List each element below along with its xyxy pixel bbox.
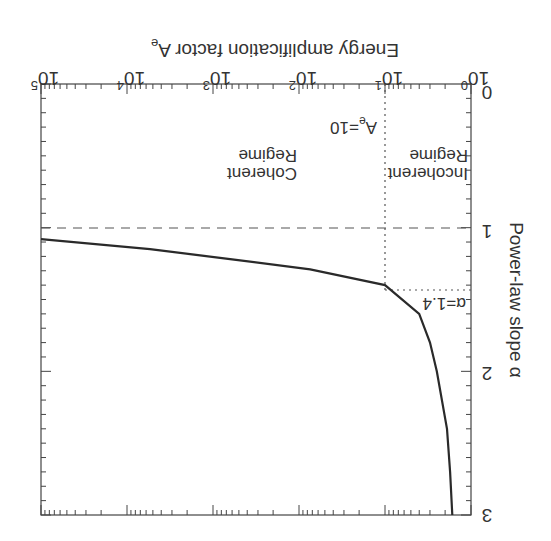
svg-text:105: 105 [31,68,59,93]
x-axis-title-sub: e [151,36,158,51]
chart: Energy amplification factor Ae 100101102… [0,0,551,541]
x-axis-title: Energy amplification factor Ae [151,36,399,61]
svg-text:103: 103 [203,68,231,93]
x-tick-label: 102 [289,68,317,93]
incoherent-line1: Incoherent [387,164,468,183]
annotation-incoherent-regime-2: Regime [409,146,468,165]
coherent-line2: Regime [238,146,297,165]
svg-text:104: 104 [117,68,145,93]
x-tick-label: 105 [31,68,59,93]
amplification-curve [41,239,452,515]
ann-ae-rest: =10 [330,118,359,137]
incoherent-line2: Regime [409,146,468,165]
ann-alpha-text: α=1.4 [423,294,466,313]
annotation-incoherent-regime: Incoherent [387,164,468,183]
svg-text:Ae=10: Ae=10 [330,114,377,137]
x-tick-label: 103 [203,68,231,93]
ann-ae-main: A [365,118,377,137]
x-tick-label: 101 [375,68,403,93]
svg-text:Energy amplification factor A: Energy amplification factor Ae [151,36,399,61]
x-axis-title-main: Energy amplification factor A [158,40,399,61]
y-tick-2: 2 [482,363,493,384]
annotation-ae-10: Ae=10 [330,114,377,137]
y-axis-title: Power-law slope α [506,222,527,378]
coherent-line1: Coherent [227,164,297,183]
annotation-coherent-regime-2: Regime [238,146,297,165]
annotation-coherent-regime: Coherent [227,164,297,183]
x-tick-labels: 100101102103104105 [31,68,489,93]
svg-text:101: 101 [375,68,403,93]
y-axis-title-text: Power-law slope α [506,222,527,378]
svg-text:102: 102 [289,68,317,93]
y-tick-0: 0 [482,82,493,103]
y-tick-1: 1 [482,221,493,242]
y-tick-3: 3 [482,505,493,526]
x-tick-label: 104 [117,68,145,93]
annotation-alpha-1.4: α=1.4 [423,294,466,313]
